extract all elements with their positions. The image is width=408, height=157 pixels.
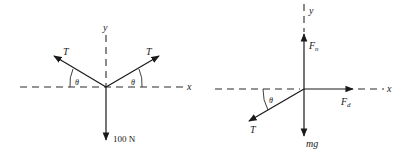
- theta-arc: [263, 89, 268, 110]
- weight-label: mg: [306, 138, 318, 149]
- theta-label: θ: [269, 96, 273, 105]
- theta-left-label: θ: [75, 78, 79, 87]
- normal-force-label: Fn: [308, 40, 319, 53]
- x-axis-label: x: [186, 81, 192, 92]
- x-axis-label: x: [386, 83, 392, 94]
- left-free-body-diagram: x y T θ T θ 100 N: [20, 22, 192, 144]
- tension-label: T: [250, 124, 257, 135]
- tension-arrow: [249, 89, 304, 121]
- theta-left-arc: [70, 69, 73, 87]
- theta-right-label: θ: [131, 78, 135, 87]
- drag-force-label: Fd: [340, 96, 351, 109]
- theta-right-arc: [139, 69, 142, 87]
- tension-left-label: T: [63, 46, 70, 57]
- right-free-body-diagram: x y Fn Fd T θ mg: [215, 4, 392, 149]
- tension-right-label: T: [146, 46, 153, 57]
- weight-label: 100 N: [113, 134, 136, 144]
- tension-left-arrow: [54, 56, 106, 87]
- free-body-diagrams: x y T θ T θ 100 N x y Fn Fd T θ mg: [0, 0, 408, 157]
- y-axis-label: y: [102, 22, 108, 33]
- y-axis-label: y: [308, 5, 314, 16]
